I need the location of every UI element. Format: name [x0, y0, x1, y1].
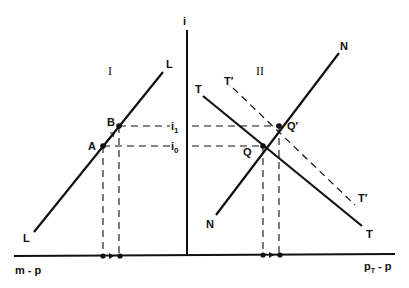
label-i0: i0 — [171, 140, 179, 155]
label-N-top: N — [340, 40, 348, 52]
diagram-canvas: i I II L L T T T′ T′ N N A B Q Q′ i1 i0 … — [0, 0, 409, 288]
curve-L — [34, 72, 163, 232]
label-i1: i1 — [171, 120, 179, 135]
label-point-Q: Q — [243, 146, 252, 158]
axis-arrow-right-icon — [269, 252, 274, 258]
label-quadrant-II: II — [256, 64, 264, 78]
label-i-axis: i — [183, 15, 186, 27]
axis-dot-Q — [260, 252, 265, 257]
curve-T — [203, 96, 362, 226]
label-point-B: B — [107, 116, 115, 128]
arrow-A-to-B-icon — [108, 133, 114, 140]
horizontal-axis — [14, 254, 395, 256]
point-Q-prime — [276, 123, 282, 129]
label-m-minus-p: m - p — [15, 264, 42, 276]
axis-dot-A — [100, 253, 105, 258]
point-Q — [260, 143, 266, 149]
label-L-bottom: L — [23, 232, 30, 244]
label-point-Q-prime: Q′ — [287, 120, 299, 132]
point-B — [116, 123, 122, 129]
label-point-A: A — [88, 140, 96, 152]
label-T-prime-top: T′ — [224, 75, 234, 87]
label-T-prime-bottom: T′ — [358, 192, 368, 204]
axis-arrow-left-icon — [109, 253, 114, 259]
label-T-bottom: T — [366, 228, 373, 240]
label-pT-minus-p: pT - p — [364, 260, 392, 274]
label-quadrant-I: I — [108, 64, 112, 78]
label-L-top: L — [166, 58, 173, 70]
label-N-bottom: N — [206, 218, 214, 230]
axis-dot-B — [117, 253, 122, 258]
point-A — [100, 143, 106, 149]
label-T-top: T — [195, 83, 202, 95]
axis-dot-Q-prime — [277, 252, 282, 257]
